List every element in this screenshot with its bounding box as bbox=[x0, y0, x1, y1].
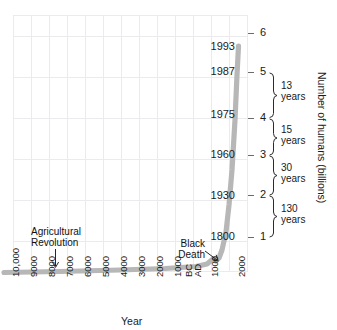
black-death-line1: Black bbox=[160, 238, 205, 249]
interval-15-number: 15 bbox=[281, 124, 315, 135]
y-scale-value-5: 5 bbox=[252, 66, 266, 77]
y-axis-ticks bbox=[248, 34, 254, 238]
agricultural-revolution-line1: Agricultural bbox=[31, 226, 81, 237]
milestone-year-1987: 1987 bbox=[205, 66, 235, 77]
interval-130-unit: years bbox=[281, 214, 315, 225]
milestone-year-1930: 1930 bbox=[205, 190, 235, 201]
doubling-interval-brackets bbox=[270, 73, 277, 237]
y-axis-title: Number of humans (billions) bbox=[316, 72, 328, 203]
x-tick-5000: 5000 bbox=[100, 256, 111, 277]
y-scale-value-3: 3 bbox=[252, 149, 266, 160]
milestone-year-1993: 1993 bbox=[205, 41, 235, 52]
x-tick-1000ad: 1000 bbox=[209, 256, 220, 277]
interval-30-number: 30 bbox=[281, 162, 315, 173]
interval-30-unit: years bbox=[281, 173, 315, 184]
interval-30-years: 30 years bbox=[281, 162, 315, 184]
milestone-year-1800: 1800 bbox=[205, 231, 235, 242]
x-tick-3000: 3000 bbox=[136, 256, 147, 277]
x-tick-4000: 4000 bbox=[118, 256, 129, 277]
interval-13-number: 13 bbox=[281, 80, 315, 91]
x-tick-8000: 8000 bbox=[46, 256, 57, 277]
x-tick-1000bc: 1000 bbox=[172, 256, 183, 277]
x-tick-10000: 10,000 bbox=[10, 248, 21, 277]
interval-15-unit: years bbox=[281, 135, 315, 146]
interval-13-years: 13 years bbox=[281, 80, 315, 102]
agricultural-revolution-line2: Revolution bbox=[31, 237, 81, 248]
interval-130-years: 130 years bbox=[281, 203, 315, 225]
interval-15-years: 15 years bbox=[281, 124, 315, 146]
milestone-year-1960: 1960 bbox=[205, 149, 235, 160]
x-tick-7000: 7000 bbox=[64, 256, 75, 277]
interval-130-number: 130 bbox=[281, 203, 315, 214]
y-scale-value-4: 4 bbox=[252, 112, 266, 123]
milestone-year-1975: 1975 bbox=[205, 109, 235, 120]
x-tick-2000ad: 2000 bbox=[236, 256, 247, 277]
y-scale-value-1: 1 bbox=[252, 231, 266, 242]
interval-13-unit: years bbox=[281, 91, 315, 102]
x-tick-6000: 6000 bbox=[82, 256, 93, 277]
x-tick-2000bc: 2000 bbox=[154, 256, 165, 277]
y-scale-value-6: 6 bbox=[252, 27, 266, 38]
y-scale-value-2: 2 bbox=[252, 189, 266, 200]
population-growth-chart: 6 5 4 3 2 1 1993 1987 1975 1960 1930 180… bbox=[0, 0, 337, 330]
x-tick-9000: 9000 bbox=[28, 256, 39, 277]
annotation-agricultural-revolution: Agricultural Revolution bbox=[31, 226, 81, 248]
x-axis-title: Year bbox=[121, 315, 142, 327]
x-tick-ad: AD bbox=[192, 264, 203, 277]
